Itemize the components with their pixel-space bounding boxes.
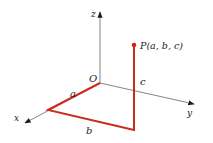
point-p-label: P(a, b, c) bbox=[139, 40, 183, 51]
coordinate-diagram: z y x O a b c P(a, b, c) bbox=[0, 0, 213, 143]
y-axis bbox=[100, 83, 194, 104]
origin-label: O bbox=[89, 73, 97, 84]
segment-b-label: b bbox=[86, 125, 92, 136]
diagram-canvas: z y x O a b c P(a, b, c) bbox=[0, 0, 213, 143]
z-axis-label: z bbox=[90, 9, 96, 19]
segment-a-label: a bbox=[70, 88, 76, 99]
segment-c-label: c bbox=[140, 76, 146, 87]
point-p-marker bbox=[132, 43, 137, 48]
x-axis-label: x bbox=[14, 113, 19, 123]
y-axis-label: y bbox=[186, 108, 193, 118]
